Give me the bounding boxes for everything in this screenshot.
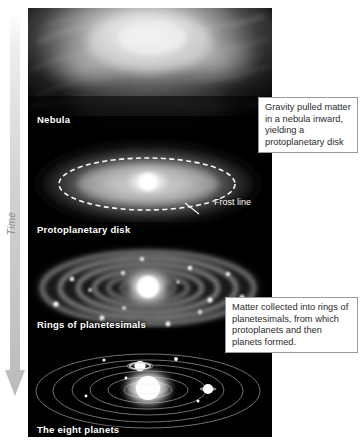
callout-gravity-text: Gravity pulled matter in a nebula inward… — [265, 102, 352, 148]
illustration-panel: Nebula — [28, 8, 272, 437]
callout-matter: Matter collected into rings of planetesi… — [225, 297, 358, 353]
stage-label-protoplanetary-disk: Protoplanetary disk — [37, 224, 130, 235]
callout-matter-text: Matter collected into rings of planetesi… — [232, 302, 352, 348]
time-axis-label: Time — [6, 202, 17, 246]
callout-gravity: Gravity pulled matter in a nebula inward… — [258, 97, 358, 153]
frost-line-label: Frost line — [214, 197, 251, 207]
stage-label-rings-of-planetesimals: Rings of planetesimals — [37, 319, 146, 330]
figure-canvas: Time — [0, 0, 360, 446]
stage-label-nebula: Nebula — [37, 114, 70, 125]
stage-label-eight-planets: The eight planets — [37, 424, 119, 435]
